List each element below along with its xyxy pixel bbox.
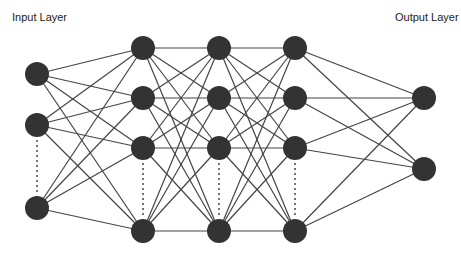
ellipsis-dot (218, 178, 220, 180)
ellipsis-dot (218, 183, 220, 185)
ellipsis-dot (142, 198, 144, 200)
ellipsis-dot (36, 190, 38, 192)
ellipsis-dot (36, 180, 38, 182)
ellipsis-dot (294, 178, 296, 180)
ellipsis-dot (36, 150, 38, 152)
ellipsis-dot (36, 140, 38, 142)
hidden-3-neuron (283, 86, 307, 110)
connection-edge (37, 48, 143, 74)
ellipsis-dot (142, 188, 144, 190)
ellipsis-dot (142, 178, 144, 180)
neural-network-diagram (0, 0, 461, 254)
ellipsis-dot (294, 173, 296, 175)
ellipsis-dot (142, 208, 144, 210)
hidden-3-neuron (283, 36, 307, 60)
ellipsis-dot (142, 193, 144, 195)
connection-edge (295, 98, 424, 231)
ellipsis-dot (294, 193, 296, 195)
ellipsis-dot (218, 213, 220, 215)
ellipsis-dot (142, 163, 144, 165)
connection-edge (37, 98, 143, 208)
hidden-3-neuron (283, 136, 307, 160)
hidden-2-neuron (207, 136, 231, 160)
connections (37, 48, 424, 231)
connection-edge (295, 98, 424, 148)
hidden-2-neuron (207, 36, 231, 60)
connection-edge (295, 169, 424, 231)
connection-edge (37, 148, 143, 208)
connection-edge (37, 208, 143, 231)
ellipsis-dot (218, 208, 220, 210)
connection-edge (37, 98, 143, 125)
ellipsis-dot (218, 168, 220, 170)
ellipsis-dot (294, 163, 296, 165)
output-neuron (412, 86, 436, 110)
ellipsis-dot (218, 203, 220, 205)
ellipsis-dot (294, 188, 296, 190)
ellipsis-dot (294, 168, 296, 170)
ellipsis-dot (294, 183, 296, 185)
input-neuron (25, 196, 49, 220)
ellipsis-dot (36, 185, 38, 187)
output-neuron (412, 157, 436, 181)
ellipsis-dot (218, 173, 220, 175)
ellipsis-dot (142, 213, 144, 215)
connection-edge (295, 48, 424, 98)
connection-edge (37, 48, 143, 125)
ellipsis-dot (218, 188, 220, 190)
ellipsis-dot (294, 198, 296, 200)
hidden-1-neuron (131, 136, 155, 160)
ellipsis-dot (294, 203, 296, 205)
ellipsis-dot (294, 213, 296, 215)
ellipsis-dot (36, 155, 38, 157)
output-layer-label: Output Layer (395, 11, 459, 23)
input-neuron (25, 113, 49, 137)
ellipsis-dot (36, 165, 38, 167)
hidden-2-neuron (207, 86, 231, 110)
ellipsis-dot (142, 168, 144, 170)
hidden-1-neuron (131, 219, 155, 243)
ellipsis-dot (218, 163, 220, 165)
input-layer-label: Input Layer (12, 11, 67, 23)
ellipsis-dot (218, 198, 220, 200)
ellipsis-dot (294, 208, 296, 210)
ellipsis-dot (36, 175, 38, 177)
hidden-1-neuron (131, 86, 155, 110)
ellipsis-dot (142, 183, 144, 185)
hidden-3-neuron (283, 219, 307, 243)
ellipsis-dot (36, 160, 38, 162)
input-neuron (25, 62, 49, 86)
ellipsis-dot (36, 145, 38, 147)
hidden-1-neuron (131, 36, 155, 60)
ellipsis-dot (142, 173, 144, 175)
ellipsis-dot (142, 203, 144, 205)
hidden-2-neuron (207, 219, 231, 243)
ellipsis-dot (36, 170, 38, 172)
ellipsis-dot (218, 193, 220, 195)
